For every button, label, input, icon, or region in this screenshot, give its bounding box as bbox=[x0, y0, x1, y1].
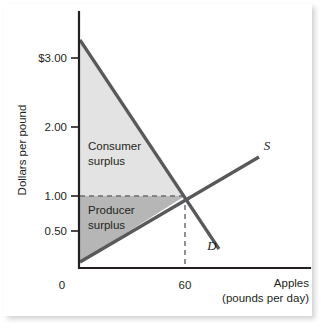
x-tick-label-60: 60 bbox=[179, 279, 192, 291]
producer-surplus-label-line1: Producer bbox=[88, 204, 135, 216]
consumer-surplus-label-line1: Consumer bbox=[88, 140, 141, 152]
producer-surplus-label-line2: surplus bbox=[88, 219, 125, 231]
y-tick-label-0-50: 0.50 bbox=[45, 225, 67, 237]
x-tick-label-0: 0 bbox=[59, 279, 65, 291]
x-axis-subtitle: (pounds per day) bbox=[222, 292, 309, 304]
y-tick-label-1-00: 1.00 bbox=[45, 190, 67, 202]
consumer-surplus-label-line2: surplus bbox=[88, 155, 125, 167]
y-tick-label-2-00: 2.00 bbox=[45, 121, 67, 133]
chart-svg: $3.00 2.00 1.00 0.50 Dollars per pound 0… bbox=[0, 0, 321, 328]
x-axis-title: Apples bbox=[274, 277, 309, 289]
demand-curve-label: D bbox=[206, 238, 217, 253]
supply-curve-label: S bbox=[264, 138, 271, 153]
supply-demand-chart: $3.00 2.00 1.00 0.50 Dollars per pound 0… bbox=[0, 0, 321, 328]
y-axis-title: Dollars per pound bbox=[16, 105, 28, 196]
y-tick-label-3-00: $3.00 bbox=[38, 52, 67, 64]
